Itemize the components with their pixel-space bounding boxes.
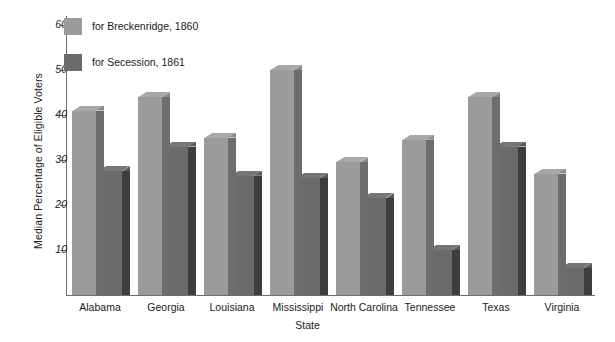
bar-louisiana-series1 [204,138,228,296]
y-tick-label: 60 [27,18,67,30]
bar-chart: Median Percentage of Eligible Voters 102… [0,0,615,342]
bar-side [320,178,328,295]
bar-side [452,250,460,295]
bar-face [468,97,492,295]
x-axis-title: State [0,319,615,331]
bar-face [138,97,162,295]
bar-side [426,140,434,295]
bar-face [402,140,426,295]
y-tick-label: 50 [27,63,67,75]
bar-group [468,16,518,295]
bar-side [122,171,130,295]
y-tick-label: 40 [27,108,67,120]
bar-virginia-series1 [534,174,558,296]
bar-tennessee-series1 [402,140,426,295]
bar-face [270,70,294,295]
bar-side [254,176,262,295]
bar-side [228,138,236,296]
bar-group [534,16,584,295]
bar-north-carolina-series1 [336,162,360,295]
bar-group [336,16,386,295]
x-tick-label-mississippi: Mississippi [273,301,324,313]
x-tick-label-tennessee: Tennessee [405,301,456,313]
bar-group [270,16,320,295]
y-tick-label: 30 [27,153,67,165]
x-tick-label-alabama: Alabama [79,301,120,313]
bar-side [492,97,500,295]
bar-alabama-series1 [72,111,96,296]
bar-side [188,147,196,296]
bar-group [402,16,452,295]
x-axis-line [66,295,595,296]
bar-georgia-series1 [138,97,162,295]
x-tick-label-virginia: Virginia [545,301,580,313]
bar-face [336,162,360,295]
legend-label: for Breckenridge, 1860 [92,20,198,32]
bar-side [294,70,302,295]
x-tick-label-texas: Texas [482,301,509,313]
bar-side [518,147,526,296]
bar-group [204,16,254,295]
bar-side [162,97,170,295]
bar-side [558,174,566,296]
bar-face [204,138,228,296]
legend-label: for Secession, 1861 [92,56,185,68]
bar-side [360,162,368,295]
bar-texas-series1 [468,97,492,295]
bar-face [534,174,558,296]
x-tick-label-north-carolina: North Carolina [330,301,398,313]
bar-face [72,111,96,296]
y-tick-label: 20 [27,198,67,210]
bar-side [96,111,104,296]
bar-mississippi-series1 [270,70,294,295]
bar-side [584,268,592,295]
y-tick-label: 10 [27,243,67,255]
x-tick-label-louisiana: Louisiana [210,301,255,313]
light-gray-swatch [64,18,82,35]
x-tick-label-georgia: Georgia [147,301,184,313]
bar-side [386,198,394,295]
dark-gray-swatch [64,54,82,71]
